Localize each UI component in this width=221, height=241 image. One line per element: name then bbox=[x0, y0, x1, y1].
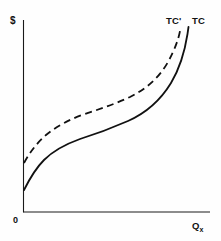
chart-canvas bbox=[0, 0, 221, 241]
origin-label: 0 bbox=[13, 216, 18, 225]
tc-curve-solid bbox=[24, 27, 189, 190]
x-axis-label: Qx bbox=[192, 221, 203, 233]
curve-label-tc: TC bbox=[192, 16, 205, 26]
y-axis-label: $ bbox=[10, 16, 16, 26]
x-axis-label-subscript: x bbox=[199, 226, 203, 233]
tc-prime-curve-dashed bbox=[24, 27, 181, 163]
curve-label-tc-prime: TC' bbox=[166, 16, 182, 26]
total-cost-curve-figure: $ 0 Qx TC' TC bbox=[0, 0, 221, 241]
